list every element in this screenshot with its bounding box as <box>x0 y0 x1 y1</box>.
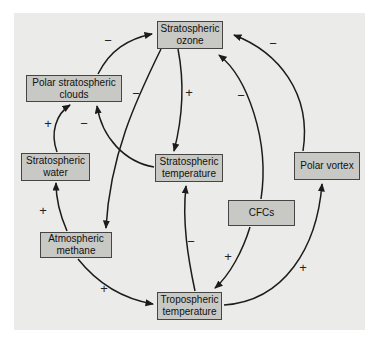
edge-sign-cfcs-trop: + <box>224 249 232 264</box>
edge-sign-ozone-methane: − <box>132 86 140 101</box>
edge-sign-vortex-ozone: − <box>269 36 277 51</box>
edge-sign-clouds-ozone: − <box>104 33 112 48</box>
edge-sign-trop-strat: − <box>187 234 195 249</box>
node-stratospheric-temperature: Stratospheric temperature <box>155 154 223 182</box>
node-stratospheric-water: Stratospheric water <box>21 153 90 181</box>
node-polar-vortex: Polar vortex <box>294 152 360 180</box>
node-polar-stratospheric-clouds: Polar stratospheric clouds <box>26 75 122 102</box>
node-stratospheric-ozone: Stratospheric ozone <box>157 21 223 49</box>
edge-sign-methane-water: + <box>39 203 47 218</box>
edge-sign-methane-trop: + <box>100 281 108 296</box>
edge-sign-strat-temp-clouds: − <box>80 116 88 131</box>
edge-sign-trop-vortex: + <box>299 260 307 275</box>
edge-sign-cfcs-ozone: − <box>237 88 245 103</box>
edge-sign-ozone-strat-temp: + <box>185 85 193 100</box>
edge-sign-water-clouds: + <box>44 116 52 131</box>
node-cfcs: CFCs <box>228 200 295 226</box>
node-atmospheric-methane: Atmospheric methane <box>40 232 112 258</box>
node-tropospheric-temperature: Tropospheric temperature <box>157 292 222 320</box>
